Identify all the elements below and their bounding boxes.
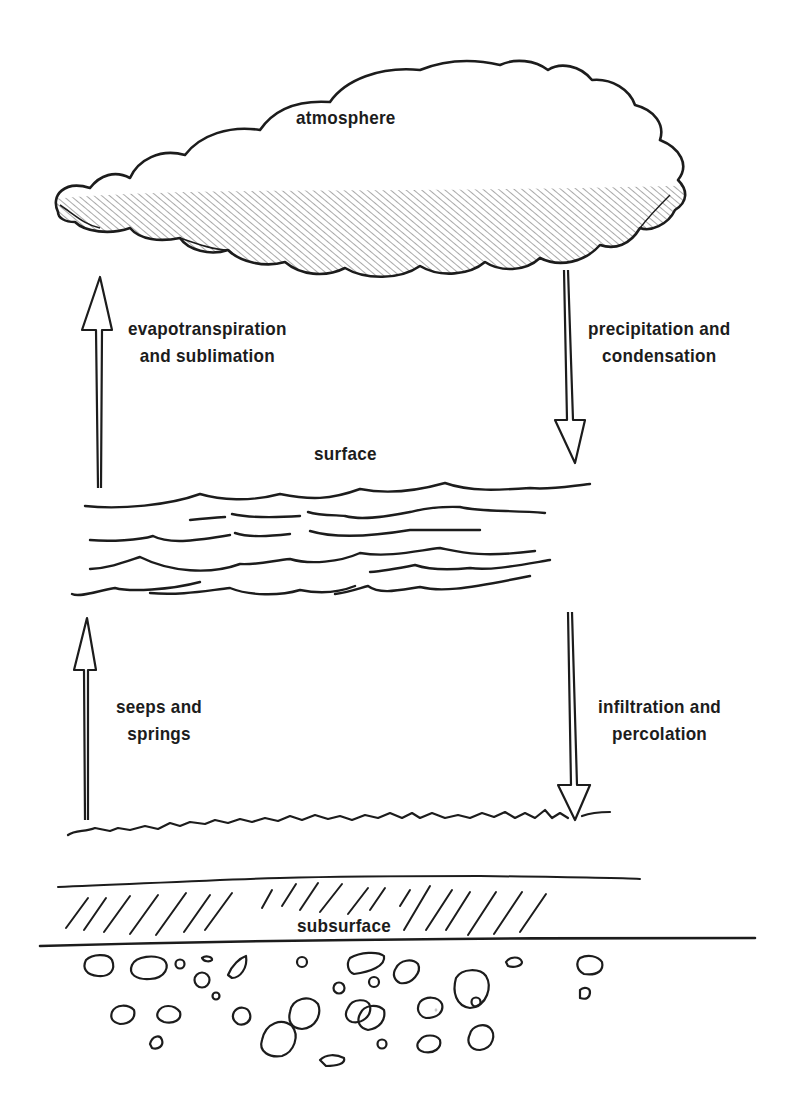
subsurface-layer-icon: [40, 876, 755, 946]
atmosphere-text: atmosphere: [296, 104, 396, 131]
arrow-up-icon: [82, 277, 112, 488]
cloud-icon: [40, 61, 700, 290]
precipitation-line2: condensation: [588, 342, 730, 369]
infiltration-label: infiltration and percolation: [598, 693, 721, 747]
water-cycle-diagram: [0, 0, 810, 1115]
surface-label: surface: [314, 440, 377, 467]
subsurface-text: subsurface: [297, 912, 391, 939]
evapotranspiration-line2: and sublimation: [128, 342, 287, 369]
infiltration-line2: percolation: [598, 720, 721, 747]
pebbles-icon: [85, 953, 603, 1066]
precipitation-label: precipitation and condensation: [588, 315, 730, 369]
evapotranspiration-label: evapotranspiration and sublimation: [128, 315, 287, 369]
atmosphere-label: atmosphere: [296, 104, 396, 131]
precipitation-line1: precipitation and: [588, 315, 730, 342]
infiltration-line1: infiltration and: [598, 693, 721, 720]
ground-line-icon: [68, 810, 610, 835]
surface-text: surface: [314, 440, 377, 467]
subsurface-label: subsurface: [297, 912, 391, 939]
evapotranspiration-line1: evapotranspiration: [128, 315, 287, 342]
seeps-line2: springs: [116, 720, 202, 747]
seeps-label: seeps and springs: [116, 693, 202, 747]
arrow-down-icon: [555, 270, 585, 463]
seeps-line1: seeps and: [116, 693, 202, 720]
arrow-down-icon: [558, 612, 590, 820]
water-waves-icon: [72, 483, 590, 595]
arrow-up-icon: [74, 618, 96, 820]
